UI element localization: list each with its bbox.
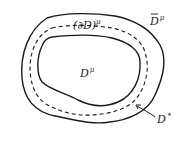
annulus-label: D* <box>156 112 172 126</box>
boundary-label: (∂D)μ <box>73 18 101 32</box>
closure-label: Dμ <box>149 14 165 28</box>
inner-region-label: Dμ <box>79 66 95 80</box>
diagram-canvas: (∂D)μ Dμ Dμ D* <box>0 0 186 143</box>
